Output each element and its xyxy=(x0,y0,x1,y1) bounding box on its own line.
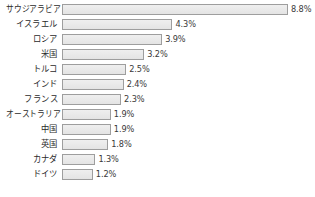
value-label: 1.3% xyxy=(98,153,118,166)
value-label: 3.2% xyxy=(147,48,167,61)
category-label: フランス xyxy=(2,93,58,106)
bar-row: サウジアラビア8.8% xyxy=(0,3,315,16)
value-label: 1.9% xyxy=(114,123,134,136)
value-label: 2.3% xyxy=(124,93,144,106)
value-label: 2.4% xyxy=(127,78,147,91)
bar-row: 中国1.9% xyxy=(0,123,315,136)
category-label: ロシア xyxy=(2,33,58,46)
bar xyxy=(62,19,172,30)
bar xyxy=(62,139,108,150)
category-label: カナダ xyxy=(2,153,58,166)
bar-row: ロシア3.9% xyxy=(0,33,315,46)
category-label: 中国 xyxy=(2,123,58,136)
category-label: オーストラリア xyxy=(6,108,58,121)
value-label: 1.2% xyxy=(96,168,116,181)
value-label: 2.5% xyxy=(129,63,149,76)
bar-row: トルコ2.5% xyxy=(0,63,315,76)
bar xyxy=(62,34,162,45)
category-label: サウジアラビア xyxy=(6,3,58,16)
bar xyxy=(62,4,288,15)
bar-group: 1.9% xyxy=(62,108,134,121)
category-label: 英国 xyxy=(2,138,58,151)
bar-group: 1.3% xyxy=(62,153,119,166)
bar xyxy=(62,79,124,90)
category-label: トルコ xyxy=(2,63,58,76)
horizontal-bar-chart: サウジアラビア8.8%イスラエル4.3%ロシア3.9%米国3.2%トルコ2.5%… xyxy=(0,0,315,197)
bar-group: 1.2% xyxy=(62,168,116,181)
category-label: イスラエル xyxy=(2,18,58,31)
bar-group: 8.8% xyxy=(62,3,311,16)
bar xyxy=(62,49,144,60)
bar xyxy=(62,124,111,135)
bar xyxy=(62,94,121,105)
bar-row: インド2.4% xyxy=(0,78,315,91)
bar-row: ドイツ1.2% xyxy=(0,168,315,181)
bar-row: イスラエル4.3% xyxy=(0,18,315,31)
bar-row: フランス2.3% xyxy=(0,93,315,106)
bar xyxy=(62,109,111,120)
bar-row: 英国1.8% xyxy=(0,138,315,151)
category-label: インド xyxy=(2,78,58,91)
bar-group: 2.5% xyxy=(62,63,150,76)
bar-group: 1.9% xyxy=(62,123,134,136)
value-label: 8.8% xyxy=(291,3,311,16)
bar-group: 2.3% xyxy=(62,93,144,106)
bar xyxy=(62,154,95,165)
bar-group: 4.3% xyxy=(62,18,196,31)
bar-row: オーストラリア1.9% xyxy=(0,108,315,121)
bar-group: 3.2% xyxy=(62,48,168,61)
bar xyxy=(62,169,93,180)
bar-row: 米国3.2% xyxy=(0,48,315,61)
value-label: 1.8% xyxy=(111,138,131,151)
value-label: 3.9% xyxy=(165,33,185,46)
bar-row: カナダ1.3% xyxy=(0,153,315,166)
category-label: ドイツ xyxy=(2,168,58,181)
bar-group: 3.9% xyxy=(62,33,186,46)
bar xyxy=(62,64,126,75)
category-label: 米国 xyxy=(2,48,58,61)
bar-group: 1.8% xyxy=(62,138,132,151)
value-label: 1.9% xyxy=(114,108,134,121)
value-label: 4.3% xyxy=(175,18,195,31)
bar-group: 2.4% xyxy=(62,78,147,91)
